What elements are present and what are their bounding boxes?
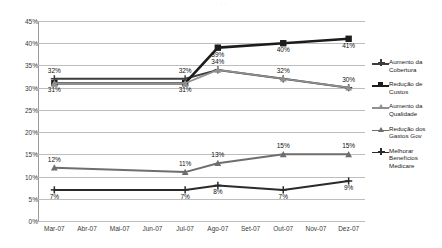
legend-item-label: Aumento da Cobertura (389, 58, 441, 73)
x-axis-tick-label: Mar-07 (44, 225, 65, 232)
series-line (54, 181, 348, 190)
y-axis-tick-label: 20% (4, 129, 38, 136)
legend-item[interactable]: Redução de Custos (372, 80, 442, 95)
data-point-label: 41% (342, 42, 355, 49)
x-axis-tick-label: Nov-07 (305, 225, 326, 232)
y-axis-tick-mark (34, 132, 37, 133)
y-axis-tick-mark (34, 176, 37, 177)
legend-triangle-icon (372, 126, 389, 135)
data-point-label: 31% (48, 86, 61, 93)
legend-item-label: Redução de Custos (389, 80, 441, 95)
legend-item[interactable]: Melhorar Benefícios Medicare (372, 147, 442, 170)
y-axis-tick-label: 25% (4, 106, 38, 113)
y-axis-tick-label: 40% (4, 40, 38, 47)
data-point-label: 39% (211, 51, 224, 58)
data-point-label: 30% (342, 76, 355, 83)
y-axis-tick-mark (34, 198, 37, 199)
y-axis-tick-label: 45% (4, 18, 38, 25)
legend-cross-icon (372, 59, 389, 68)
y-axis-tick-label: 5% (4, 195, 38, 202)
y-axis-tick-mark (34, 65, 37, 66)
chart-legend: Aumento da CoberturaRedução de CustosAum… (372, 58, 442, 177)
legend-item-label: Redução dos Gastos Gov (389, 125, 441, 140)
data-point-label: 11% (179, 160, 192, 167)
data-point-label: 13% (211, 151, 224, 158)
y-axis-tick-mark (34, 221, 37, 222)
y-axis-tick-label: 15% (4, 151, 38, 158)
data-point-label: 34% (211, 58, 224, 65)
data-point-label: 32% (48, 67, 61, 74)
data-point-label: 7% (50, 193, 59, 200)
legend-item-label: Aumento da Qualidade (389, 102, 441, 117)
data-point-label: 7% (180, 193, 189, 200)
data-point-label: 32% (179, 67, 192, 74)
gridline (38, 221, 365, 222)
y-axis-tick-label: 30% (4, 84, 38, 91)
legend-item[interactable]: Redução dos Gastos Gov (372, 125, 442, 140)
y-axis-tick-label: 10% (4, 173, 38, 180)
plot-area: 32%32%34%32%30%31%31%39%40%41%12%11%13%1… (38, 21, 365, 221)
series-lines (38, 21, 365, 221)
legend-cross-icon (372, 148, 389, 157)
x-axis-tick-label: Jul-07 (176, 225, 194, 232)
x-axis-tick-label: Set-07 (241, 225, 260, 232)
x-axis-tick-label: Out-07 (273, 225, 293, 232)
y-axis-tick-mark (34, 21, 37, 22)
clipped-title-strip: · · · (0, 0, 442, 9)
data-point-label: 8% (213, 188, 222, 195)
legend-item[interactable]: Aumento da Cobertura (372, 58, 442, 73)
x-axis-tick-label: Abr-07 (77, 225, 97, 232)
y-axis-tick-mark (34, 154, 37, 155)
x-axis-labels: Mar-07Abr-07Mai-07Jun-07Jul-07Ago-07Set-… (38, 225, 365, 241)
x-axis-tick-label: Jun-07 (143, 225, 163, 232)
y-axis-labels: 45%40%35%30%25%20%15%10%5%0% (0, 21, 38, 221)
x-axis-tick-label: Dez-07 (338, 225, 359, 232)
series-line (54, 154, 348, 172)
x-axis-tick-label: Mai-07 (110, 225, 130, 232)
y-axis-tick-mark (34, 43, 37, 44)
data-point-label: 9% (344, 184, 353, 191)
y-axis-tick-label: 0% (4, 218, 38, 225)
data-point-label: 7% (279, 193, 288, 200)
data-point-label: 12% (48, 156, 61, 163)
y-axis-tick-mark (34, 109, 37, 110)
legend-triangle-icon (372, 103, 389, 112)
data-point-label: 32% (277, 67, 290, 74)
data-point-label: 15% (277, 142, 290, 149)
legend-item[interactable]: Aumento da Qualidade (372, 102, 442, 117)
y-axis-tick-label: 35% (4, 62, 38, 69)
data-point-label: 31% (179, 86, 192, 93)
data-point-label: 40% (277, 46, 290, 53)
y-axis-tick-mark (34, 87, 37, 88)
chart-container: · · · 45%40%35%30%25%20%15%10%5%0% 32%32… (0, 0, 442, 248)
data-point-label: 15% (342, 142, 355, 149)
x-axis-tick-label: Ago-07 (207, 225, 228, 232)
series-line (54, 70, 348, 88)
legend-item-label: Melhorar Benefícios Medicare (389, 147, 441, 170)
legend-square-icon (372, 81, 389, 90)
